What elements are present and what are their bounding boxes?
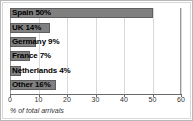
x-axis-title: % of total arrivals [10,107,64,114]
tick-label-20: 20 [63,96,71,103]
tick-label-60: 60 [177,96,185,103]
bar-row: UK 14% [10,23,181,33]
bar-label-spain: Spain 50% [12,8,51,18]
chart-inner-frame: Spain 50%UK 14%Germany 9%France 7%Nether… [2,2,191,119]
tick-label-40: 40 [120,96,128,103]
tick-label-50: 50 [149,96,157,103]
bar-row: Other 16% [10,80,181,90]
bar-row: Spain 50% [10,8,181,18]
bar-label-france: France 7% [12,51,51,61]
tick-label-10: 10 [35,96,43,103]
bar-label-other: Other 16% [12,80,51,90]
bar-row: France 7% [10,51,181,61]
bar-row: Germany 9% [10,37,181,47]
bar-label-germany: Germany 9% [12,37,59,47]
plot-area: Spain 50%UK 14%Germany 9%France 7%Nether… [10,8,181,94]
gridline-60 [181,8,182,94]
bar-series: Spain 50%UK 14%Germany 9%France 7%Nether… [10,8,181,94]
tick-label-0: 0 [8,96,12,103]
chart-frame: Spain 50%UK 14%Germany 9%France 7%Nether… [0,0,193,121]
bar-label-uk: UK 14% [12,23,41,33]
bar-label-netherlands: Netherlands 4% [12,66,71,76]
tick-label-30: 30 [92,96,100,103]
bar-row: Netherlands 4% [10,66,181,76]
